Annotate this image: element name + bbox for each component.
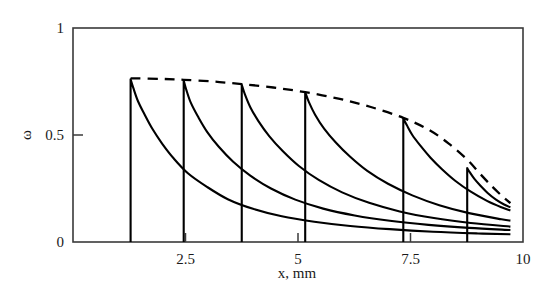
chart-plot-area bbox=[0, 0, 559, 295]
y-tick-label: 0 bbox=[20, 235, 64, 250]
x-tick-label: 10 bbox=[516, 252, 531, 267]
curve-profile-4 bbox=[305, 92, 510, 242]
data-curves bbox=[131, 78, 511, 242]
x-tick-label: 7.5 bbox=[401, 252, 420, 267]
x-axis-label: x, mm bbox=[278, 266, 316, 281]
chart-figure: 2.557.51000.51 x, mm ω bbox=[0, 0, 559, 295]
x-tick-label: 2.5 bbox=[176, 252, 195, 267]
y-axis-label: ω bbox=[19, 130, 34, 140]
curve-profile-6 bbox=[467, 168, 510, 242]
y-tick-label: 1 bbox=[20, 21, 64, 36]
curve-profile-1 bbox=[131, 79, 511, 242]
curve-profile-2 bbox=[184, 80, 511, 242]
